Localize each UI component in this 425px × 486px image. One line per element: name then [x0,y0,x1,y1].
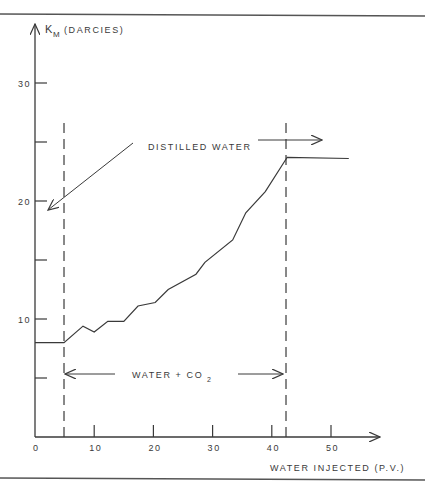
x-tick-label: 10 [89,443,102,453]
y-axis-label: K M (DARCIES) [45,23,124,39]
distilled-water-left-arrow [48,143,133,210]
x-tick-label: 30 [208,443,221,453]
x-axis-label: WATER INJECTED (P.V.) [270,463,405,473]
x-tick-label: 50 [326,443,339,453]
water-co2-label: WATER + CO [132,370,203,380]
x-tick-label: 40 [267,443,280,453]
top-border [0,14,425,16]
svg-text:(DARCIES): (DARCIES) [64,25,124,35]
phase-boundary-lines [64,123,286,437]
x-tick-label: 0 [33,443,40,453]
water-co2-annotation: WATER + CO 2 [65,370,283,383]
x-ticks: 01020304050 [33,425,339,453]
y-tick-label: 20 [18,197,31,207]
chart: K M (DARCIES) 102030 01020304050 WATER I… [0,0,425,486]
x-tick-label: 20 [148,443,161,453]
svg-text:M: M [53,30,61,39]
distilled-water-label: DISTILLED WATER [148,142,252,152]
bottom-border [0,478,425,480]
km-series-line [35,157,349,342]
y-tick-label: 30 [18,79,31,89]
y-ticks: 102030 [18,79,47,379]
y-tick-label: 10 [18,315,31,325]
distilled-water-annotation: DISTILLED WATER [48,140,322,210]
water-co2-subscript: 2 [207,376,213,383]
